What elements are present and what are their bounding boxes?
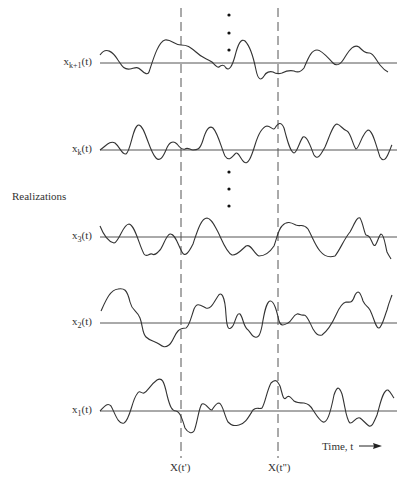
realization-label-x2: x2(t): [32, 315, 92, 330]
curve-xk1: [100, 40, 388, 79]
realization-label-xk: xk(t): [32, 142, 92, 157]
realization-label-x1: x1(t): [32, 403, 92, 418]
baselines: [100, 63, 397, 411]
sample-time-label-t2: X(t''): [268, 461, 290, 473]
curve-xk: [100, 123, 392, 162]
curve-x3: [100, 218, 391, 259]
ellipsis-dots: [227, 13, 230, 207]
realizations-side-label: Realizations: [12, 190, 66, 202]
sample-time-label-t1: X(t'): [170, 461, 190, 473]
realization-label-xk1: xk+1(t): [32, 55, 92, 70]
curve-x2: [101, 289, 392, 347]
realization-curves: [100, 40, 394, 433]
time-axis-label: Time, t: [322, 440, 353, 452]
right-arrow-icon: [359, 443, 382, 449]
curve-x1: [100, 379, 394, 433]
realization-label-x3: x3(t): [32, 229, 92, 244]
